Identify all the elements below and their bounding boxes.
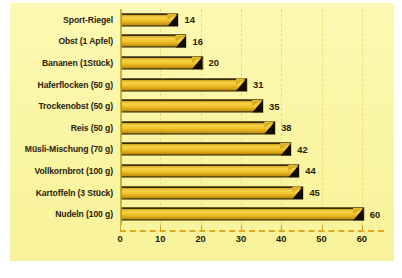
x-tick-label: 0 [117,233,122,244]
x-tick-label: 20 [195,233,205,244]
x-tick-label: 10 [155,233,165,244]
bar-fill [122,208,364,221]
category-label: Bananen (1Stück) [42,58,113,68]
x-tick-label: 40 [276,233,286,244]
x-tick-50 [322,225,323,230]
bar-chart: Sport-Riegel14Obst (1 Apfel)16Bananen (1… [10,3,394,261]
x-axis: 0102030405060 [120,225,382,255]
x-tick-label: 60 [357,233,367,244]
x-tick-20 [201,225,202,230]
x-tick-label: 30 [236,233,246,244]
x-tick-40 [281,225,282,230]
bar-row: Vollkornbrot (100 g)44 [120,160,382,182]
bar-row: Haferflocken (50 g)31 [120,74,382,96]
bar-value-label: 35 [269,101,279,112]
bar-row: Kartoffeln (3 Stück)45 [120,182,382,204]
x-tick-label: 50 [316,233,326,244]
bar: 45 [122,186,303,199]
bar: 35 [122,100,263,113]
x-tick-60 [362,225,363,230]
category-label: Nudeln (100 g) [55,209,113,219]
bar: 16 [122,35,186,48]
x-tick-0 [120,225,121,230]
bar-row: Reis (50 g)38 [120,117,382,139]
bar-fill [122,186,303,199]
bar-fill [122,100,263,113]
bar: 60 [122,208,364,221]
bar-fill [122,56,203,69]
bar-row: Trockenobst (50 g)35 [120,95,382,117]
bar-row: Bananen (1Stück)20 [120,52,382,74]
bar: 31 [122,78,247,91]
bar-value-label: 38 [281,122,291,133]
category-label: Müsli-Mischung (70 g) [25,144,113,154]
bar-value-label: 44 [305,165,315,176]
bar-value-label: 42 [297,144,307,155]
bar: 44 [122,164,299,177]
bar-value-label: 31 [253,79,263,90]
category-label: Sport-Riegel [63,15,113,25]
category-label: Obst (1 Apfel) [58,36,113,46]
bar-fill [122,78,247,91]
bar-value-label: 20 [209,57,219,68]
bar: 14 [122,13,178,26]
bar-row: Müsli-Mischung (70 g)42 [120,139,382,161]
x-tick-30 [241,225,242,230]
bar-fill [122,143,291,156]
bar-row: Sport-Riegel14 [120,9,382,31]
bar-value-label: 45 [309,187,319,198]
x-tick-10 [160,225,161,230]
bar: 42 [122,143,291,156]
plot-area: Sport-Riegel14Obst (1 Apfel)16Bananen (1… [120,9,382,225]
bar-row: Nudeln (100 g)60 [120,203,382,225]
bar-value-label: 60 [370,209,380,220]
category-label: Vollkornbrot (100 g) [34,166,113,176]
bar-value-label: 16 [192,36,202,47]
bar-row: Obst (1 Apfel)16 [120,31,382,53]
bar: 38 [122,121,275,134]
bar-fill [122,121,275,134]
category-label: Kartoffeln (3 Stück) [36,188,113,198]
category-label: Haferflocken (50 g) [38,80,113,90]
bar-fill [122,164,299,177]
bar-value-label: 14 [184,14,194,25]
category-label: Trockenobst (50 g) [38,101,113,111]
category-label: Reis (50 g) [71,123,113,133]
bar: 20 [122,56,203,69]
